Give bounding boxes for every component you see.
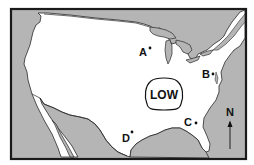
location-dot-b (212, 73, 215, 76)
location-label-c: C (184, 116, 192, 128)
location-label-d: D (122, 132, 130, 144)
location-label-a: A (139, 46, 147, 58)
low-pressure-label: LOW (150, 88, 179, 102)
location-dot-a (149, 47, 152, 50)
location-label-b: B (202, 68, 210, 80)
weather-map: LOW A B C D N (0, 0, 254, 165)
north-label: N (226, 106, 234, 118)
location-dot-d (131, 131, 134, 134)
location-dot-c (195, 122, 198, 125)
low-pressure-system: LOW (145, 78, 182, 110)
